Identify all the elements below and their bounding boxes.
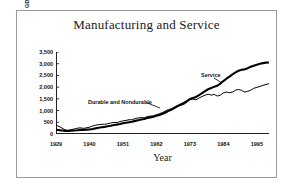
leader-line-service bbox=[214, 78, 222, 83]
series-line-durable-and-nondurable bbox=[56, 84, 269, 131]
y-axis-ticklabel: 1,500 bbox=[31, 96, 53, 102]
y-axis-ticklabel: 1,000 bbox=[31, 108, 53, 114]
plot-area: GDP in Billions ($) 3,5003,0002,5002,000… bbox=[56, 52, 269, 134]
series-label-durable-and-nondurable: Durable and Nondurable bbox=[88, 99, 152, 105]
y-axis-ticklabel: 2,500 bbox=[31, 72, 53, 78]
y-axis-title: GDP in Billions ($) bbox=[24, 0, 30, 38]
x-axis-ticklabel: 1973 bbox=[184, 141, 196, 147]
y-axis-ticklabel: 2,000 bbox=[31, 84, 53, 90]
x-axis-title: Year bbox=[56, 152, 269, 163]
figure-container: Manufacturing and Service GDP in Billion… bbox=[0, 0, 293, 188]
x-axis-ticklabel: 1995 bbox=[251, 141, 263, 147]
series-label-service: Service bbox=[201, 72, 221, 78]
y-axis-ticklabel: 500 bbox=[31, 119, 53, 125]
axis-lines bbox=[56, 52, 269, 134]
series-line-service bbox=[56, 62, 269, 131]
y-axis-ticklabel: 0 bbox=[31, 131, 53, 137]
x-axis-ticklabel: 1929 bbox=[50, 141, 62, 147]
x-axis-ticklabel: 1940 bbox=[83, 141, 95, 147]
x-axis-ticklabel: 1984 bbox=[217, 141, 229, 147]
page-title: Manufacturing and Service bbox=[16, 17, 277, 33]
x-axis-ticklabel: 1962 bbox=[150, 141, 162, 147]
x-axis-ticklabel: 1951 bbox=[117, 141, 129, 147]
y-axis-ticklabel: 3,500 bbox=[31, 49, 53, 55]
y-axis-ticklabel: 3,000 bbox=[31, 61, 53, 67]
chart-canvas bbox=[56, 52, 269, 134]
